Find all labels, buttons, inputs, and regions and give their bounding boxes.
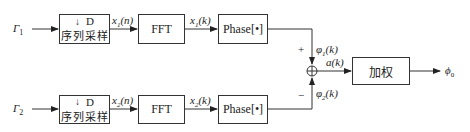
delay-label: D <box>86 96 94 108</box>
fft-box-2: FFT <box>138 95 185 124</box>
delay-label: D <box>86 15 94 27</box>
input-gamma-2: Γ2 <box>13 103 23 117</box>
sampler-box-2: ↓D 序列采样 <box>59 95 110 124</box>
signal-phi2: φ2(k) <box>316 88 338 102</box>
weighting-box: 加权 <box>352 57 410 85</box>
phase-box-1: Phase[•] <box>218 14 268 44</box>
output-phi0: ϕ0 <box>445 65 454 79</box>
input-gamma-1: Γ1 <box>13 23 23 37</box>
phase-box-2: Phase[•] <box>218 95 268 124</box>
signal-x2n: x2(n) <box>112 95 133 109</box>
down-arrow-icon: ↓ <box>75 16 80 27</box>
signal-x1n: x1(n) <box>112 15 133 29</box>
signal-ak: a(k) <box>326 57 344 68</box>
plus-sign: + <box>298 44 304 55</box>
sampler-label: 序列采样 <box>61 108 109 124</box>
signal-x1k: x1(k) <box>190 15 211 29</box>
sampler-box-1: ↓D 序列采样 <box>59 14 110 44</box>
down-arrow-icon: ↓ <box>75 96 80 107</box>
minus-sign: − <box>298 90 304 101</box>
sampler-label: 序列采样 <box>61 27 109 43</box>
fft-box-1: FFT <box>138 14 185 44</box>
signal-x2k: x2(k) <box>190 95 211 109</box>
